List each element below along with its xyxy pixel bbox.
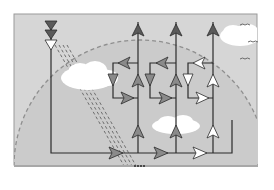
diagram-canvas bbox=[0, 0, 274, 190]
network-diagram bbox=[0, 0, 274, 190]
cloud-upper-right bbox=[220, 24, 260, 46]
